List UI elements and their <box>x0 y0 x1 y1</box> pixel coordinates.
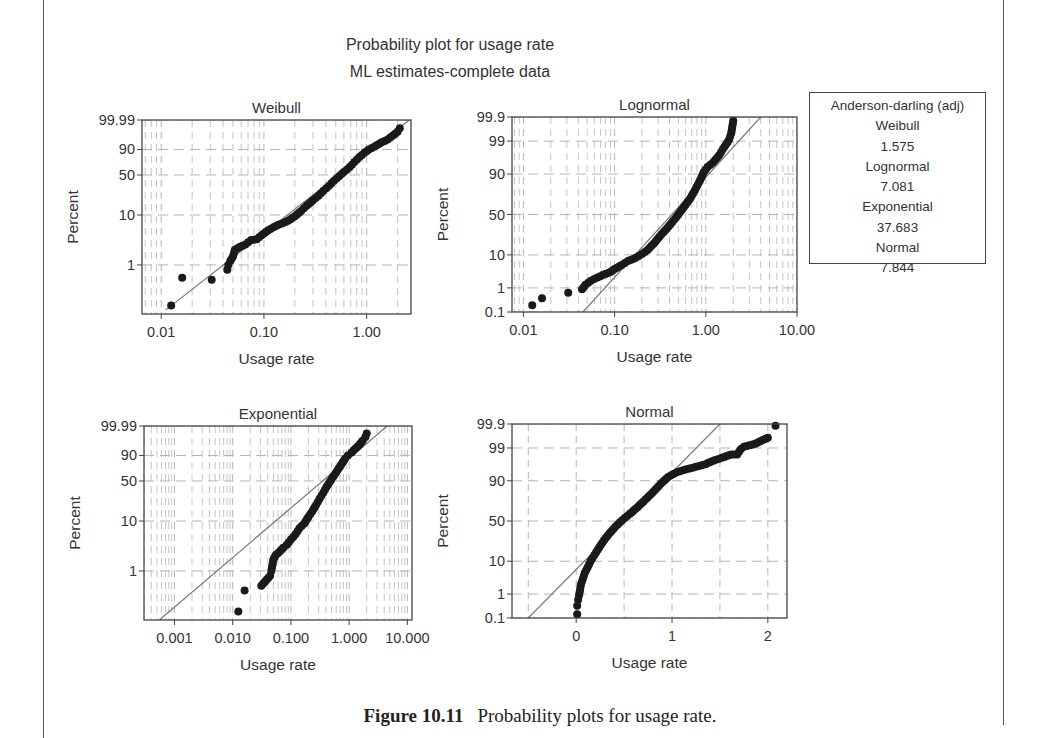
y-axis-label: Percent <box>66 496 83 550</box>
y-axis-label: Percent <box>434 494 451 548</box>
x-axis-label: Usage rate <box>617 348 693 365</box>
legend-normal-name: Normal <box>810 238 985 258</box>
y-tick-label: 90 <box>121 447 137 463</box>
x-tick-label: 0.10 <box>600 322 628 338</box>
plot-title: Weibull <box>252 99 301 116</box>
x-axis-label: Usage rate <box>240 656 316 673</box>
grid <box>512 424 787 618</box>
y-tick-label: 50 <box>489 513 505 529</box>
x-tick-label: 0.010 <box>215 630 251 646</box>
x-tick-label: 1.00 <box>353 324 381 340</box>
legend-exponential-value: 37.683 <box>810 218 985 238</box>
x-tick-label: 1.000 <box>331 630 367 646</box>
caption-text: Probability plots for usage rate. <box>477 705 716 726</box>
x-tick-label: 2 <box>764 628 772 644</box>
legend-lognormal-value: 7.081 <box>810 177 985 197</box>
x-tick-label: 0.10 <box>250 324 278 340</box>
y-tick-label: 99 <box>489 440 505 456</box>
plot-title: Normal <box>625 403 673 420</box>
data-points <box>573 422 779 618</box>
y-tick-label: 99.9 <box>477 416 505 432</box>
x-tick-label: 0 <box>572 628 580 644</box>
y-tick-label: 99 <box>489 133 505 149</box>
y-tick-label: 90 <box>119 141 135 157</box>
y-tick-label: 90 <box>489 166 505 182</box>
y-tick-label: 99.9 <box>477 109 505 125</box>
legend-normal-value: 7.844 <box>810 258 985 278</box>
grid <box>144 426 412 620</box>
y-tick-label: 1 <box>127 257 135 273</box>
y-tick-label: 10 <box>489 553 505 569</box>
y-axis-label: Percent <box>434 187 451 241</box>
anderson-darling-legend: Anderson-darling (adj) Weibull 1.575 Log… <box>809 92 986 264</box>
y-tick-label: 90 <box>489 473 505 489</box>
legend-title: Anderson-darling (adj) <box>810 96 985 116</box>
y-tick-label: 99.99 <box>101 418 137 434</box>
x-tick-label: 10.00 <box>779 322 815 338</box>
x-tick-label: 0.100 <box>273 630 309 646</box>
x-tick-label: 10.000 <box>385 630 429 646</box>
data-points <box>234 429 370 615</box>
y-tick-label: 1 <box>129 563 137 579</box>
plot-normal: 0.111050909999.9012NormalUsage ratePerce… <box>434 403 787 671</box>
x-axis-label: Usage rate <box>612 654 688 671</box>
y-axis-label: Percent <box>64 190 81 244</box>
y-tick-label: 0.1 <box>485 304 505 320</box>
y-tick-label: 1 <box>497 280 505 296</box>
y-tick-label: 50 <box>489 207 505 223</box>
legend-exponential-name: Exponential <box>810 197 985 217</box>
y-tick-label: 50 <box>119 167 135 183</box>
x-tick-label: 0.01 <box>147 324 175 340</box>
figure-caption: Figure 10.11Probability plots for usage … <box>300 705 780 727</box>
x-axis-label: Usage rate <box>239 350 315 367</box>
plot-lognormal: 0.111050909999.90.010.101.0010.00Lognorm… <box>434 96 815 365</box>
x-tick-label: 1.00 <box>692 322 720 338</box>
legend-lognormal-name: Lognormal <box>810 157 985 177</box>
caption-label: Figure 10.11 <box>364 705 464 726</box>
y-tick-label: 10 <box>121 513 137 529</box>
y-tick-label: 10 <box>119 207 135 223</box>
y-tick-label: 0.1 <box>485 610 505 626</box>
x-tick-label: 0.01 <box>509 322 537 338</box>
y-tick-label: 10 <box>489 247 505 263</box>
plot-weibull: 110509099.990.010.101.00WeibullUsage rat… <box>64 99 411 367</box>
y-tick-label: 1 <box>497 586 505 602</box>
grid <box>512 117 797 312</box>
plot-title: Exponential <box>239 405 317 422</box>
legend-weibull-value: 1.575 <box>810 137 985 157</box>
plot-exponential: 110509099.990.0010.0100.1001.00010.000Ex… <box>66 405 430 673</box>
legend-weibull-name: Weibull <box>810 116 985 136</box>
y-tick-label: 99.99 <box>99 112 135 128</box>
x-tick-label: 1 <box>668 628 676 644</box>
plot-title: Lognormal <box>619 96 690 113</box>
x-tick-label: 0.001 <box>156 630 192 646</box>
y-tick-label: 50 <box>121 473 137 489</box>
